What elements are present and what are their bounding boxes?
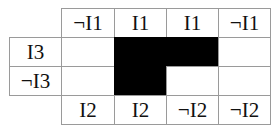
col-header-bottom-2: I2: [114, 95, 167, 125]
cell-r1-c4: [218, 37, 271, 67]
col-header-top-1: ¬I1: [61, 8, 115, 38]
cell-r2-c2: [114, 66, 167, 96]
col-header-bottom-1: I2: [61, 95, 115, 125]
cell-r2-c3: [166, 66, 219, 96]
cell-r1-c3: [166, 37, 219, 67]
cell-r2-c1: [61, 66, 115, 96]
col-header-bottom-3: ¬I2: [166, 95, 219, 125]
row-header-2: ¬I3: [9, 66, 62, 96]
col-header-top-3: I1: [166, 8, 219, 38]
col-header-bottom-4: ¬I2: [218, 95, 271, 125]
cell-r1-c1: [61, 37, 115, 67]
cell-r1-c2: [114, 37, 167, 67]
cell-r2-c4: [218, 66, 271, 96]
col-header-top-4: ¬I1: [218, 8, 271, 38]
row-header-1: I3: [9, 37, 62, 67]
col-header-top-2: I1: [114, 8, 167, 38]
